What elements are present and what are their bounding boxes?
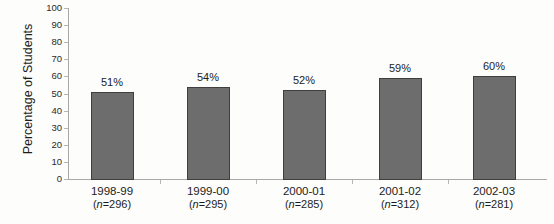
x-tick [160, 180, 161, 184]
y-tick-label: 60 [34, 71, 62, 81]
y-tick-label: 70 [34, 54, 62, 64]
x-n-label: (n=296) [67, 198, 157, 211]
x-n-label: (n=312) [355, 198, 445, 211]
y-tick [64, 128, 68, 129]
y-tick [64, 42, 68, 43]
x-category-label: 1999-00 [163, 185, 253, 198]
y-axis-line [68, 8, 69, 179]
y-tick-label: 20 [34, 140, 62, 150]
y-tick-label: 90 [34, 20, 62, 30]
y-tick-label: 10 [34, 157, 62, 167]
x-n-label: (n=285) [259, 198, 349, 211]
y-tick-label: 40 [34, 106, 62, 116]
x-category-label: 1998-99 [67, 185, 157, 198]
y-tick-label: 50 [34, 89, 62, 99]
y-tick [64, 76, 68, 77]
x-tick [256, 180, 257, 184]
x-tick [352, 180, 353, 184]
x-category-label: 2000-01 [259, 185, 349, 198]
bar [473, 76, 516, 180]
bar [283, 90, 326, 180]
x-category-label: 2002-03 [449, 185, 539, 198]
y-tick [64, 111, 68, 112]
x-category-label: 2001-02 [355, 185, 445, 198]
bar-value-label: 60% [464, 60, 524, 72]
y-tick [64, 94, 68, 95]
bar-value-label: 59% [370, 62, 430, 74]
y-tick [64, 59, 68, 60]
y-tick-label: 100 [34, 3, 62, 13]
bar-value-label: 54% [178, 71, 238, 83]
y-tick-label: 0 [34, 174, 62, 184]
x-tick [448, 180, 449, 184]
y-tick [64, 179, 68, 180]
x-n-label: (n=281) [449, 198, 539, 211]
bar-chart: Percentage of Students 01020304050607080… [0, 0, 554, 224]
bar [91, 92, 134, 180]
y-tick [64, 162, 68, 163]
y-tick [64, 25, 68, 26]
y-tick-label: 80 [34, 37, 62, 47]
bar [379, 78, 422, 180]
y-tick [64, 8, 68, 9]
bar-value-label: 52% [274, 74, 334, 86]
bar [187, 87, 230, 180]
y-tick-label: 30 [34, 123, 62, 133]
bar-value-label: 51% [82, 76, 142, 88]
y-tick [64, 145, 68, 146]
x-n-label: (n=295) [163, 198, 253, 211]
